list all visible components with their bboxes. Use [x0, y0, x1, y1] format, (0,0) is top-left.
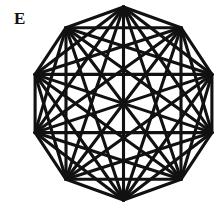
figure-container: E — [0, 0, 224, 207]
graph-edge-group — [35, 7, 212, 200]
figure-label: E — [14, 10, 25, 27]
graph-edge-v1-v8 — [35, 28, 181, 75]
complete-graph-decagon-drawing — [0, 0, 224, 207]
graph-edge-v2-v9 — [66, 28, 212, 75]
